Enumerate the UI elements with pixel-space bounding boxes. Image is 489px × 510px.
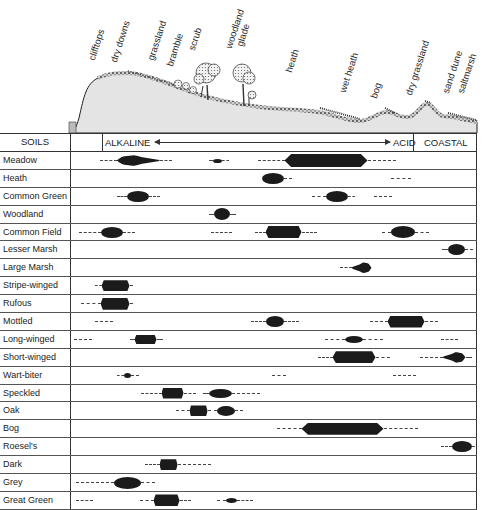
occasional-range-dash: [472, 446, 475, 447]
table-row: Heath: [0, 170, 477, 188]
occasional-range-dash: [141, 393, 162, 394]
occasional-range-dash: [130, 339, 135, 340]
table-row: Speckled: [0, 385, 477, 403]
occasional-range-dash: [348, 196, 355, 197]
species-label: Lesser Marsh: [3, 244, 58, 254]
occasional-range-dash: [284, 178, 292, 179]
occasional-range-dash: [284, 321, 299, 322]
woodland-tree-icon: [233, 64, 256, 106]
table-row: Grey: [0, 474, 477, 492]
distribution-track: [70, 492, 477, 509]
abundance-blob: [154, 494, 180, 506]
occasional-range-dash: [415, 232, 429, 233]
occasional-range-dash: [312, 196, 326, 197]
occasional-range-dash: [318, 357, 333, 358]
abundance-blob: [333, 351, 376, 363]
distribution-track: [70, 152, 477, 169]
abundance-blob: [162, 388, 184, 399]
occasional-range-dash: [441, 446, 452, 447]
species-label: Common Field: [3, 227, 62, 237]
distribution-track: [70, 456, 477, 473]
species-label: Large Marsh: [3, 262, 54, 272]
species-label: Dark: [3, 459, 22, 469]
abundance-blob: [213, 159, 222, 163]
abundance-blob: [114, 477, 141, 489]
abundance-blob: [262, 173, 284, 184]
abundance-blob: [448, 244, 465, 255]
occasional-range-dash: [184, 393, 196, 394]
occasional-range-dash: [176, 410, 190, 411]
species-label: Meadow: [3, 155, 37, 165]
distribution-track: [70, 438, 477, 455]
occasional-range-dash: [441, 339, 458, 340]
occasional-range-dash: [95, 285, 102, 286]
abundance-blob: [124, 373, 131, 378]
coastal-header-cell: COASTAL: [413, 134, 477, 151]
distribution-track: [70, 206, 477, 223]
occasional-range-dash: [258, 160, 285, 161]
table-row: Lesser Marsh: [0, 241, 477, 259]
species-label: Great Green: [3, 495, 53, 505]
species-label: Woodland: [3, 209, 43, 219]
species-label: Rufous: [3, 298, 32, 308]
abundance-blob: [214, 208, 230, 220]
occasional-range-dash: [211, 232, 232, 233]
occasional-range-dash: [442, 249, 448, 250]
occasional-range-dash: [76, 482, 114, 483]
occasional-range-dash: [203, 393, 209, 394]
occasional-range-dash: [100, 160, 117, 161]
distribution-track: [70, 259, 477, 276]
occasional-range-dash: [130, 285, 133, 286]
abundance-blob: [443, 352, 466, 363]
occasional-range-dash: [393, 375, 416, 376]
abundance-blob: [326, 191, 348, 202]
occasional-range-dash: [340, 267, 352, 268]
occasional-range-dash: [74, 339, 92, 340]
table-row: Mottled: [0, 313, 477, 331]
abundance-blob: [135, 335, 157, 344]
table-row: Oak: [0, 402, 477, 420]
occasional-range-dash: [374, 196, 392, 197]
occasional-range-dash: [325, 339, 345, 340]
table-row: Rufous: [0, 295, 477, 313]
distribution-track: [70, 241, 477, 258]
abundance-blob: [352, 262, 372, 273]
species-label: Bog: [3, 423, 19, 433]
occasional-range-dash: [209, 214, 214, 215]
abundance-blob: [302, 423, 384, 435]
abundance-blob: [101, 227, 123, 238]
occasional-range-dash: [255, 232, 266, 233]
abundance-blob: [190, 405, 208, 416]
species-label: Common Green: [3, 191, 67, 201]
occasional-range-dash: [230, 214, 236, 215]
occasional-range-dash: [130, 303, 133, 304]
species-label: Mottled: [3, 316, 33, 326]
species-distribution-table: SOILS ALKALINE ACID COASTAL MeadowHeathC…: [0, 133, 477, 510]
occasional-range-dash: [382, 232, 391, 233]
species-label: Roesel's: [3, 441, 37, 451]
occasional-range-dash: [370, 321, 388, 322]
occasional-range-dash: [117, 196, 127, 197]
table-row: Woodland: [0, 206, 477, 224]
occasional-range-dash: [232, 393, 260, 394]
occasional-range-dash: [466, 357, 472, 358]
occasional-range-dash: [79, 232, 101, 233]
occasional-range-dash: [235, 410, 243, 411]
coastal-label: COASTAL: [424, 137, 468, 148]
occasional-range-dash: [178, 464, 211, 465]
abundance-blob: [160, 459, 178, 470]
table-row: Large Marsh: [0, 259, 477, 277]
abundance-blob: [226, 498, 237, 503]
occasional-range-dash: [117, 375, 124, 376]
abundance-blob: [388, 316, 425, 328]
distribution-track: [70, 295, 477, 312]
abundance-blob: [209, 389, 232, 398]
distribution-track: [70, 224, 477, 241]
distribution-track: [70, 188, 477, 205]
occasional-range-dash: [149, 196, 160, 197]
table-row: Dark: [0, 456, 477, 474]
table-row: Great Green: [0, 492, 477, 510]
species-label: Speckled: [3, 388, 40, 398]
occasional-range-dash: [420, 357, 443, 358]
abundance-blob: [285, 154, 368, 167]
